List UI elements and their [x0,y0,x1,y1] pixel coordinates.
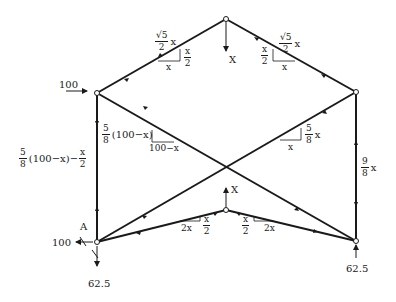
slope-top-left-rise: x2 [184,47,191,68]
slope-diagonal-right-run: x [288,143,293,152]
reaction-right-vertical-label: 62.5 [346,264,368,274]
joint-top [224,17,229,22]
load-X-center-label: X [231,185,238,195]
joint-A-label: A [80,222,87,232]
slope-bottom-right-rise: x2 [242,215,249,236]
load-X-top-label: X [229,55,236,65]
force-left-vertical: 58 (100−x)− x2 [19,148,88,169]
force-top-right: √52 x [279,33,300,54]
force-top-left: √52 x [155,31,176,52]
slope-top-right-run: x [282,63,287,72]
member-top-right [226,19,356,92]
joint-bottom-center [224,208,229,213]
slope-bottom-left-run: 2x [181,224,192,233]
joint-bottom-right [354,239,359,244]
joint-A [95,240,100,245]
force-diagonal-left: 58 (100−x) [102,124,153,145]
reaction-A-vertical-label: 62.5 [88,279,110,289]
load-100-label: 100 [59,80,78,90]
slope-top-right-rise: x2 [261,45,268,66]
slope-bottom-right-run: 2x [264,224,275,233]
joint-right [354,90,359,95]
force-right-vertical: 98 x [361,157,376,178]
force-diagonal-right: 58 x [305,124,320,145]
slope-bottom-left-rise: x2 [203,215,210,236]
reaction-A-horizontal-label: 100 [52,238,71,248]
slope-diagonal-left-run: 100−x [149,144,179,153]
slope-top-left-run: x [166,63,171,72]
truss-diagram: 100 X X A 100 62.5 62.5 √52 x x2 x √52 x… [0,0,396,302]
joint-left [95,91,100,96]
